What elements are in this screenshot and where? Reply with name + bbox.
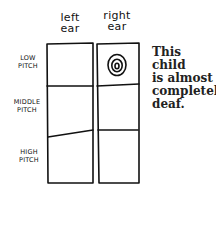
concentric-circles-icon	[108, 55, 126, 76]
caption: This child is almost completely deaf.	[152, 46, 216, 111]
caption-line4: deaf.	[152, 98, 216, 111]
right-divider-low-middle	[97, 84, 139, 86]
left-divider-middle-high	[48, 130, 93, 137]
left-ear-column	[47, 43, 93, 183]
caption-line1: This child	[152, 46, 216, 72]
